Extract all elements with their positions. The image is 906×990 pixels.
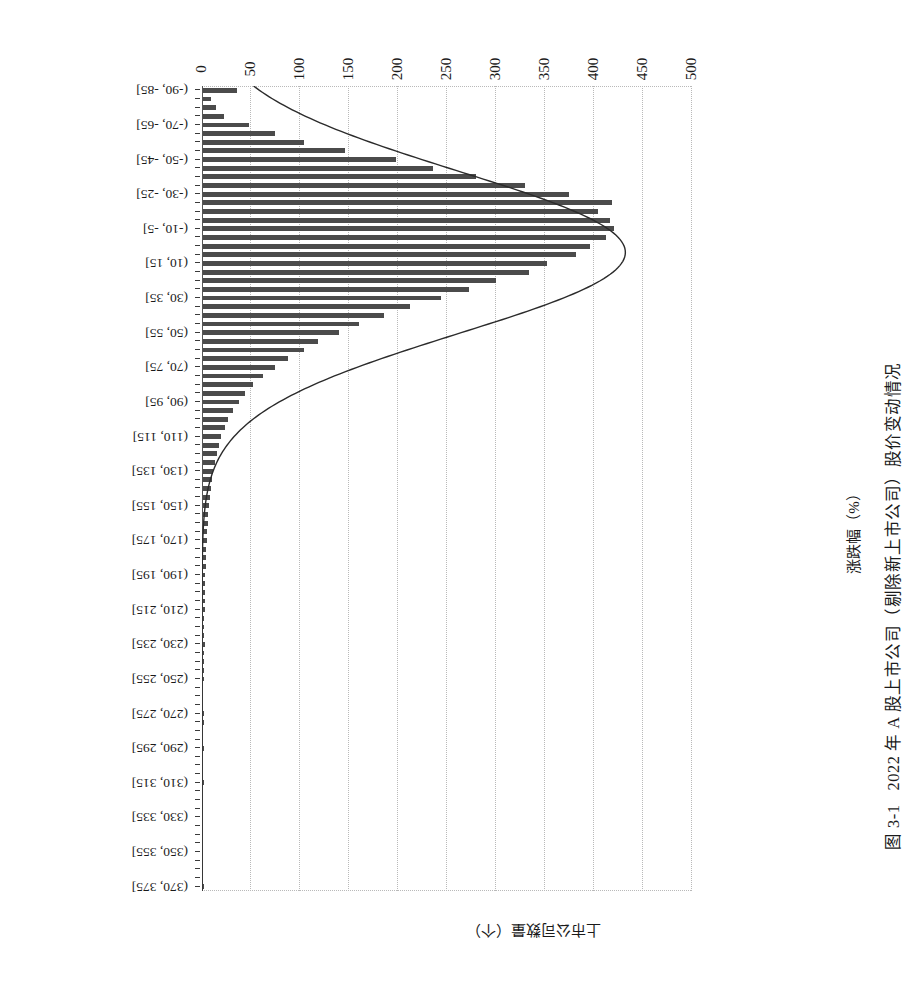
category-tick-label: (-90, -85] — [38, 82, 188, 98]
value-axis-title: 上市公司数量（个） — [373, 921, 693, 942]
category-tick-mark — [195, 505, 200, 506]
category-tick-mark — [195, 366, 200, 367]
category-tick-mark — [195, 842, 200, 843]
category-tick-mark — [195, 280, 200, 281]
category-tick-label: (-30, -25] — [38, 186, 188, 202]
category-tick-mark — [195, 513, 200, 514]
category-tick-mark — [195, 427, 200, 428]
figure-caption: 图 3-12022 年 A 股上市公司（剔除新上市公司）股价变动情况 — [880, 210, 906, 850]
category-tick-mark — [195, 704, 200, 705]
category-tick-label: (90, 95] — [38, 394, 188, 410]
normal-fit-curve — [202, 86, 692, 891]
category-tick-mark — [195, 410, 200, 411]
category-tick-label: (170, 175] — [38, 532, 188, 548]
category-tick-mark — [195, 799, 200, 800]
category-tick-mark — [195, 557, 200, 558]
category-tick-mark — [195, 159, 200, 160]
category-tick-mark — [195, 591, 200, 592]
category-tick-mark — [195, 860, 200, 861]
category-tick-label: (110, 115] — [38, 429, 188, 445]
category-tick-label: (330, 335] — [38, 809, 188, 825]
category-tick-label: (130, 135] — [38, 463, 188, 479]
category-tick-mark — [195, 626, 200, 627]
category-tick-mark — [195, 436, 200, 437]
category-tick-mark — [195, 583, 200, 584]
category-tick-mark — [195, 825, 200, 826]
category-tick-mark — [195, 340, 200, 341]
category-tick-label: (150, 155] — [38, 498, 188, 514]
category-tick-mark — [195, 314, 200, 315]
category-tick-mark — [195, 185, 200, 186]
category-tick-mark — [195, 548, 200, 549]
category-tick-mark — [195, 254, 200, 255]
category-tick-mark — [195, 271, 200, 272]
category-tick-mark — [195, 851, 200, 852]
category-tick-mark — [195, 176, 200, 177]
category-tick-label: (250, 255] — [38, 671, 188, 687]
category-tick-mark — [195, 418, 200, 419]
category-tick-mark — [195, 488, 200, 489]
value-tick-label: 50 — [242, 49, 260, 89]
value-tick-label: 350 — [536, 49, 554, 89]
category-tick-mark — [195, 219, 200, 220]
category-tick-mark — [195, 89, 200, 90]
category-tick-mark — [195, 531, 200, 532]
category-tick-mark — [195, 816, 200, 817]
category-tick-mark — [195, 133, 200, 134]
value-tick-label: 400 — [585, 49, 603, 89]
category-tick-label: (270, 275] — [38, 706, 188, 722]
category-tick-mark — [195, 444, 200, 445]
category-tick-mark — [195, 193, 200, 194]
category-tick-label: (-50, -45] — [38, 152, 188, 168]
category-tick-mark — [195, 124, 200, 125]
value-tick-label: 450 — [634, 49, 652, 89]
value-tick-label: 150 — [340, 49, 358, 89]
category-tick-mark — [195, 782, 200, 783]
category-tick-mark — [195, 288, 200, 289]
category-tick-mark — [195, 202, 200, 203]
category-tick-mark — [195, 756, 200, 757]
category-tick-mark — [195, 115, 200, 116]
category-tick-mark — [195, 790, 200, 791]
category-tick-mark — [195, 358, 200, 359]
category-tick-label: (350, 355] — [38, 844, 188, 860]
category-tick-mark — [195, 713, 200, 714]
category-tick-mark — [195, 107, 200, 108]
category-tick-mark — [195, 236, 200, 237]
category-tick-mark — [195, 834, 200, 835]
category-tick-mark — [195, 808, 200, 809]
value-tick-label: 200 — [389, 49, 407, 89]
category-tick-mark — [195, 297, 200, 298]
category-tick-mark — [195, 245, 200, 246]
category-tick-mark — [195, 661, 200, 662]
category-tick-mark — [195, 98, 200, 99]
category-tick-mark — [195, 687, 200, 688]
category-tick-mark — [195, 747, 200, 748]
category-tick-mark — [195, 730, 200, 731]
category-tick-mark — [195, 678, 200, 679]
value-tick-label: 300 — [487, 49, 505, 89]
figure-number: 图 3-1 — [884, 804, 903, 850]
category-tick-mark — [195, 695, 200, 696]
category-tick-mark — [195, 652, 200, 653]
category-tick-mark — [195, 401, 200, 402]
category-tick-mark — [195, 150, 200, 151]
category-tick-mark — [195, 375, 200, 376]
value-tick-label: 100 — [291, 49, 309, 89]
category-tick-label: (290, 295] — [38, 740, 188, 756]
category-tick-mark — [195, 470, 200, 471]
category-tick-mark — [195, 739, 200, 740]
category-tick-mark — [195, 669, 200, 670]
category-tick-label: (230, 235] — [38, 636, 188, 652]
category-tick-mark — [195, 565, 200, 566]
category-tick-label: (310, 315] — [38, 775, 188, 791]
category-tick-label: (70, 75] — [38, 359, 188, 375]
category-tick-mark — [195, 141, 200, 142]
category-tick-mark — [195, 522, 200, 523]
category-tick-mark — [195, 886, 200, 887]
category-tick-label: (30, 35] — [38, 290, 188, 306]
category-tick-mark — [195, 617, 200, 618]
category-tick-label: (370, 375] — [38, 879, 188, 895]
category-tick-mark — [195, 479, 200, 480]
category-tick-mark — [195, 539, 200, 540]
